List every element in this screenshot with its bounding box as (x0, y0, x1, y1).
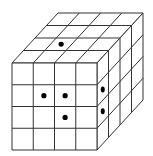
right-dot (101, 108, 105, 114)
cube-faces (12, 13, 143, 150)
top-dot (59, 42, 64, 47)
front-dot (41, 93, 46, 98)
front-dot (63, 115, 68, 120)
cube-diagram (0, 0, 153, 156)
front-dot (63, 93, 68, 98)
right-dot (101, 86, 105, 92)
